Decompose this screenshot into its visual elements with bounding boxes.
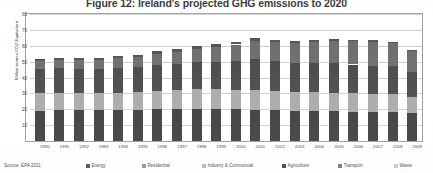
bar-segment [94, 110, 104, 141]
x-axis-tick-label: 1999 [211, 144, 231, 150]
bar-column[interactable] [152, 51, 162, 141]
bar-column[interactable] [270, 40, 280, 141]
legend-label: Waste [400, 163, 413, 168]
bar-segment [54, 93, 64, 110]
bar-segment [113, 93, 123, 111]
chart-footer: Source: EPA 2011 EnergyResidentialIndust… [0, 161, 433, 173]
x-axis-ticks: 1990199119921993199419951996199719981999… [30, 144, 422, 152]
bar-segment [348, 65, 358, 94]
bar-segment [388, 66, 398, 94]
bar-segment [113, 56, 123, 58]
x-axis-tick-label: 1992 [74, 144, 94, 150]
bar-segment [309, 92, 319, 111]
bar-column[interactable] [348, 40, 358, 141]
bar-segment [290, 92, 300, 111]
legend-item[interactable]: Energy [86, 162, 106, 169]
y-axis-ticks: 1020304050607080 [5, 14, 27, 141]
legend-item[interactable]: Industry & Commercial [202, 162, 253, 169]
bar-column[interactable] [231, 42, 241, 141]
bar-column[interactable] [35, 59, 45, 141]
bar-segment [231, 61, 241, 90]
bar-segment [152, 51, 162, 53]
bar-segment [94, 60, 104, 69]
gridline [30, 93, 422, 94]
bar-segment [54, 58, 64, 60]
legend-label: Residential [148, 163, 170, 168]
bar-segment [231, 45, 241, 62]
bar-segment [329, 63, 339, 93]
bar-segment [329, 39, 339, 41]
bar-segment [407, 113, 417, 141]
bar-segment [192, 89, 202, 108]
legend-item[interactable]: Residential [142, 162, 170, 169]
legend-swatch [338, 164, 342, 168]
bar-segment [172, 52, 182, 64]
x-axis-tick-label: 2004 [309, 144, 329, 150]
bar-segment [35, 69, 45, 93]
bar-segment [270, 61, 280, 91]
bar-segment [133, 92, 143, 110]
y-axis-tick-label: 20 [7, 107, 27, 112]
bar-segment [368, 112, 378, 141]
bar-column[interactable] [368, 40, 378, 141]
bar-segment [94, 58, 104, 60]
bar-segment [152, 65, 162, 91]
gridline [30, 46, 422, 47]
bar-segment [290, 111, 300, 141]
bar-column[interactable] [290, 41, 300, 141]
bar-segment [368, 40, 378, 42]
bar-column[interactable] [250, 38, 260, 141]
bar-segment [74, 69, 84, 93]
gridline [30, 125, 422, 126]
bar-column[interactable] [74, 58, 84, 141]
bar-segment [368, 94, 378, 112]
bar-segment [152, 109, 162, 141]
bar-segment [407, 51, 417, 72]
bar-segment [250, 90, 260, 110]
x-axis-tick-label: 1991 [54, 144, 74, 150]
bar-segment [270, 42, 280, 61]
x-axis-tick-label: 1996 [152, 144, 172, 150]
bar-segment [348, 40, 358, 42]
bar-segment [309, 42, 319, 63]
bar-segment [290, 63, 300, 92]
gridline [30, 62, 422, 63]
bar-segment [231, 109, 241, 141]
legend-item[interactable]: Waste [394, 162, 412, 169]
x-axis-tick-label: 2001 [250, 144, 270, 150]
bar-segment [250, 38, 260, 40]
x-axis-tick-label: 1993 [94, 144, 114, 150]
bar-segment [35, 93, 45, 110]
x-axis-tick-label: 2006 [348, 144, 368, 150]
bar-segment [329, 93, 339, 112]
legend-swatch [282, 164, 286, 168]
bar-segment [211, 62, 221, 90]
bar-segment [211, 44, 221, 46]
page-title: Figure 12: Ireland's projected GHG emiss… [0, 0, 433, 10]
bar-segment [133, 57, 143, 67]
bar-segment [133, 67, 143, 92]
bar-segment [94, 69, 104, 93]
bar-column[interactable] [388, 42, 398, 141]
bar-column[interactable] [192, 46, 202, 141]
gridline [30, 14, 422, 15]
bar-segment [309, 63, 319, 92]
bar-column[interactable] [133, 55, 143, 141]
y-axis-tick-label: 60 [7, 43, 27, 48]
bar-column[interactable] [94, 58, 104, 141]
bar-column[interactable] [329, 39, 339, 141]
legend-item[interactable]: Agriculture [282, 162, 309, 169]
bar-segment [290, 43, 300, 63]
bar-column[interactable] [211, 44, 221, 141]
bar-column[interactable] [407, 50, 417, 141]
bar-column[interactable] [309, 40, 319, 141]
bar-segment [250, 110, 260, 141]
bar-segment [329, 111, 339, 141]
x-axis-tick-label: 2000 [231, 144, 251, 150]
bar-column[interactable] [54, 58, 64, 141]
legend-item[interactable]: Transport [338, 162, 363, 169]
bar-column[interactable] [172, 49, 182, 141]
y-axis-tick-label: 50 [7, 59, 27, 64]
bar-column[interactable] [113, 56, 123, 141]
bar-segment [368, 42, 378, 66]
